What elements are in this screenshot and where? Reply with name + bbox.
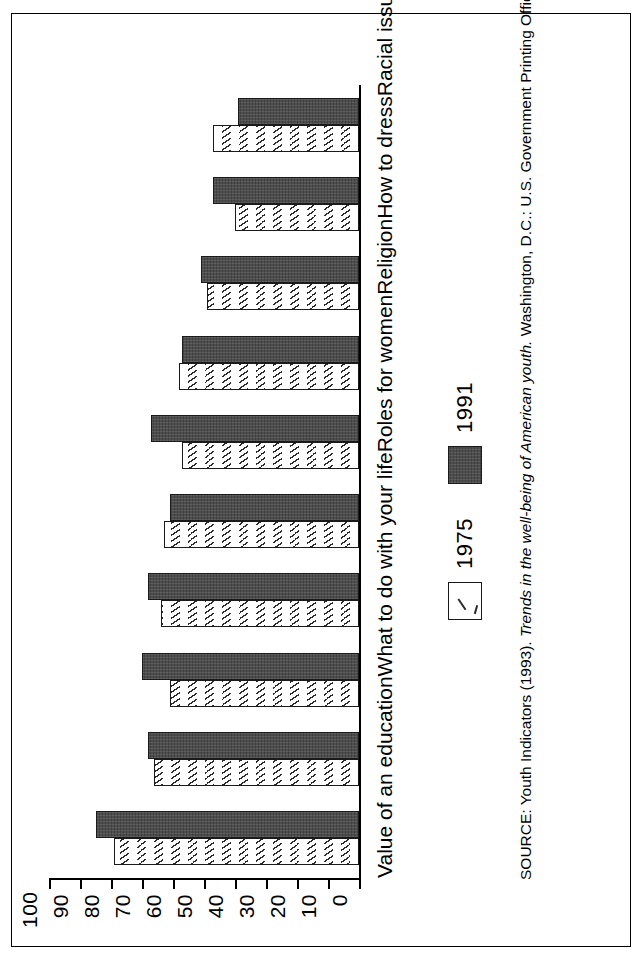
bar-group	[49, 244, 359, 323]
bar-group	[49, 164, 359, 243]
y-tick-20	[297, 880, 299, 889]
bar-group	[49, 799, 359, 878]
y-tick-0	[359, 880, 361, 889]
bar-1991	[151, 415, 359, 442]
bar-1991	[142, 653, 359, 680]
y-tick-10	[328, 880, 330, 889]
y-tick-40	[235, 880, 237, 889]
bar-1991	[238, 98, 359, 125]
y-tick-label-80: 80	[81, 894, 102, 928]
y-tick-label-50: 50	[174, 894, 195, 928]
bar-1975	[114, 838, 359, 865]
legend-item-1991: 1991	[448, 382, 482, 484]
category-label: What to do with your life	[367, 452, 396, 676]
bar-group	[49, 640, 359, 719]
y-tick-80	[111, 880, 113, 889]
y-tick-label-90: 90	[50, 894, 71, 928]
y-tick-label-100: 100	[19, 894, 40, 928]
legend-item-1975: 1975	[448, 518, 482, 620]
y-tick-label-10: 10	[298, 894, 319, 928]
figure-page: 0102030405060708090100 Value of an educa…	[0, 0, 643, 960]
y-tick-90	[80, 880, 82, 889]
legend-label-1975: 1975	[454, 518, 476, 569]
category-label: Roles for women	[367, 295, 396, 453]
bar-1975	[154, 759, 359, 786]
bar-1991	[182, 336, 359, 363]
figure-border: 0102030405060708090100 Value of an educa…	[11, 13, 631, 947]
bar-1975	[207, 283, 359, 310]
source-note: SOURCE: Youth Indicators (1993). Trends …	[517, 44, 535, 880]
bar-groups	[49, 85, 359, 878]
y-tick-60	[173, 880, 175, 889]
bar-group	[49, 402, 359, 481]
y-tick-label-20: 20	[267, 894, 288, 928]
bar-group	[49, 561, 359, 640]
y-tick-label-60: 60	[143, 894, 164, 928]
source-suffix: Washington, D.C.: U.S. Government Printi…	[517, 0, 534, 341]
chart-legend: 1975 1991	[437, 200, 493, 620]
y-tick-70	[142, 880, 144, 889]
bar-1975	[179, 363, 359, 390]
y-tick-label-0: 0	[329, 894, 350, 928]
bar-1975	[170, 680, 359, 707]
legend-label-1991: 1991	[454, 382, 476, 433]
chart-stage: 0102030405060708090100 Value of an educa…	[41, 40, 601, 920]
category-label: Value of an education	[367, 676, 396, 878]
bar-group	[49, 719, 359, 798]
x-axis-line	[359, 85, 361, 880]
bar-1975	[235, 204, 359, 231]
bar-1975	[213, 125, 359, 152]
bar-group	[49, 85, 359, 164]
source-title: Trends in the well-being of American you…	[517, 341, 534, 637]
y-tick-50	[204, 880, 206, 889]
bar-1975	[182, 442, 359, 469]
y-tick-label-70: 70	[112, 894, 133, 928]
legend-swatch-1991	[448, 446, 482, 484]
y-tick-label-30: 30	[236, 894, 257, 928]
bar-group	[49, 323, 359, 402]
category-labels: Value of an educationWhat to do with you…	[367, 85, 396, 878]
source-prefix: SOURCE: Youth Indicators (1993).	[517, 637, 534, 880]
bar-group	[49, 482, 359, 561]
y-tick-100	[49, 880, 51, 889]
bar-1991	[170, 494, 359, 521]
bar-1975	[164, 521, 359, 548]
bar-1991	[96, 811, 360, 838]
legend-swatch-1975	[448, 582, 482, 620]
y-tick-30	[266, 880, 268, 889]
category-label: How to dress	[367, 96, 396, 219]
bar-1991	[213, 177, 359, 204]
y-tick-label-40: 40	[205, 894, 226, 928]
bar-1991	[201, 256, 359, 283]
plot-area: 0102030405060708090100	[51, 85, 361, 880]
bar-1975	[161, 600, 359, 627]
bar-1991	[148, 732, 359, 759]
bar-1991	[148, 573, 359, 600]
category-label: Religion	[367, 219, 396, 295]
category-label: Racial issues	[367, 0, 396, 96]
